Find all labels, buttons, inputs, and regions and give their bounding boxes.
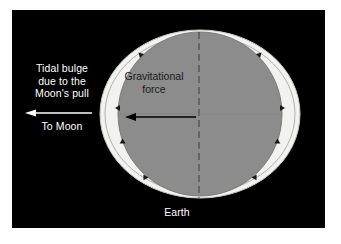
tidal-bulge-caption: Tidal bulge due to the Moon's pull [16, 62, 108, 100]
tidal-bulge-caption-line2: due to the [16, 75, 108, 88]
tidal-bulge-caption-line1: Tidal bulge [16, 62, 108, 75]
tidal-bulge-caption-line3: Moon's pull [16, 87, 108, 100]
diagram-panel: Tidal bulge due to the Moon's pull To Mo… [12, 10, 325, 228]
earth-label: Earth [147, 206, 207, 219]
gravitational-force-line2: force [110, 83, 198, 96]
gravitational-force-line1: Gravitational [110, 70, 198, 83]
to-moon-arrow [25, 110, 92, 117]
to-moon-label: To Moon [16, 120, 108, 133]
tidal-bulge-diagram: Tidal bulge due to the Moon's pull To Mo… [0, 0, 341, 244]
diagram-canvas [12, 10, 325, 228]
gravitational-force-label: Gravitational force [110, 70, 198, 95]
